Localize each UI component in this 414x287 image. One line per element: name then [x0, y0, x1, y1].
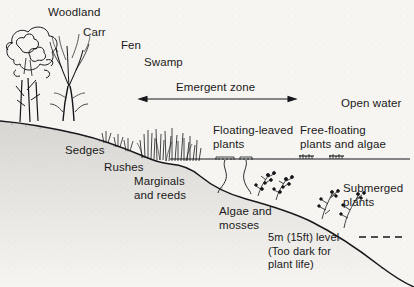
label-marginals-and-reeds: Marginals and reeds [134, 175, 186, 202]
label-emergent-zone: Emergent zone [176, 81, 255, 95]
label-fen: Fen [121, 39, 141, 53]
label-rushes: Rushes [104, 161, 144, 175]
label-swamp: Swamp [144, 56, 183, 70]
label-floating-leaved-plants: Floating-leaved plants [213, 124, 293, 151]
label-sedges: Sedges [65, 144, 105, 158]
label-submerged-plants: Submerged plants [343, 182, 403, 209]
label-depth-note: (Too dark for plant life) [268, 245, 331, 271]
label-carr: Carr [83, 26, 106, 40]
label-free-floating-plants: Free-floating plants and algae [300, 124, 386, 151]
label-open-water: Open water [341, 97, 401, 111]
diagram-canvas: Woodland Carr Fen Swamp Emergent zone Op… [0, 0, 414, 287]
label-woodland: Woodland [48, 6, 100, 20]
label-depth-level: 5m (15ft) level [268, 231, 339, 244]
label-algae-and-mosses: Algae and mosses [219, 205, 272, 232]
